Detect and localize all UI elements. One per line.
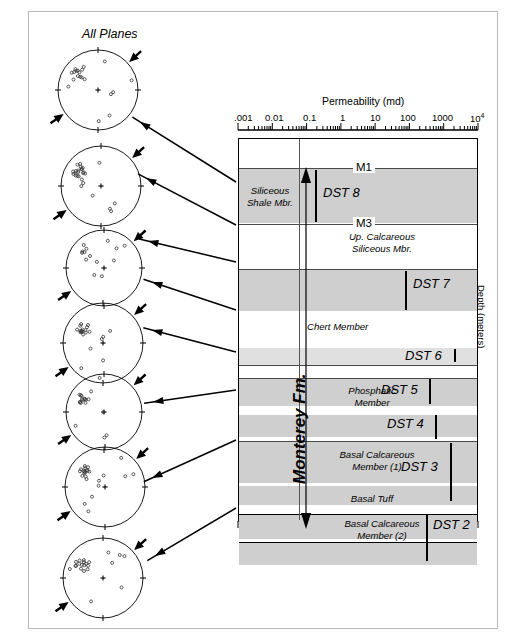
stereonet-arrow-sw [58,511,71,520]
stereonet-arrow-sw [58,435,71,444]
connector-arrow-3 [139,239,236,262]
connector-arrow-2 [138,174,236,225]
stereonet-4 [56,300,147,386]
connector-arrow-6 [144,390,236,404]
connector-arrow-7 [144,440,236,482]
stereonet-arrow-ne [132,147,144,158]
stereonet-arrow-sw [56,367,69,376]
stereonet-3 [58,227,146,309]
stereonet-2 [54,143,145,229]
stereonet-arrow-sw [58,291,71,300]
stereonet-8 [56,535,147,621]
stereonet-arrow-ne [134,539,146,550]
connector-arrow-4 [144,279,237,310]
stereonet-6 [58,444,149,530]
connector-arrow-1 [132,117,236,182]
stereonet-arrow-ne [134,304,146,315]
stereonet-arrow-sw [56,602,69,611]
stereonet-arrow-sw [51,114,64,123]
stereonet-arrow-sw [54,210,67,219]
stereonet-layer [0,0,527,643]
figure-root: All Planes Permeability (md) .001 0.01 0… [0,0,527,643]
stereonet-arrow-ne [129,51,141,62]
stereonet-arrow-ne [134,375,146,386]
stereonet-arrow-ne [136,448,148,459]
stereonet-1 [51,47,142,133]
connector-arrow-8 [147,508,236,561]
connector-arrow-5 [143,328,236,352]
